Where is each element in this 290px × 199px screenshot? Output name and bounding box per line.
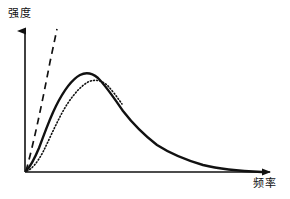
planck-solid-curve xyxy=(26,73,262,172)
planck-dotted-curve xyxy=(27,80,122,171)
x-axis-label: 频率 xyxy=(253,178,276,189)
rayleigh-jeans-dashed-curve xyxy=(26,29,57,171)
plot-canvas xyxy=(0,0,290,199)
blackbody-spectrum-figure: 强度 频率 xyxy=(0,0,290,199)
y-axis-label: 强度 xyxy=(8,8,31,19)
